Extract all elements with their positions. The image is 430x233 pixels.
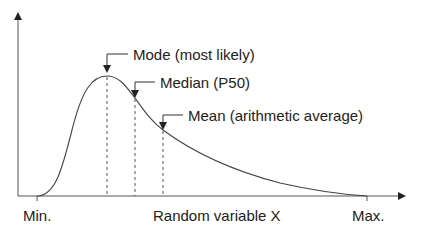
x-min-label: Min.: [23, 208, 51, 223]
x-axis-title: Random variable X: [153, 208, 281, 223]
y-axis-arrow-icon: [14, 12, 22, 20]
mode-leader: [107, 54, 128, 66]
mode-pointer-icon: [103, 65, 111, 73]
x-max-label: Max.: [352, 208, 385, 223]
mean-leader: [163, 115, 183, 123]
median-label: Median (P50): [160, 75, 250, 90]
median-leader: [135, 82, 155, 91]
x-axis-arrow-icon: [398, 192, 406, 200]
mean-pointer-icon: [159, 122, 167, 130]
mode-label: Mode (most likely): [133, 47, 255, 62]
density-curve: [37, 76, 367, 196]
mean-label: Mean (arithmetic average): [188, 108, 363, 123]
